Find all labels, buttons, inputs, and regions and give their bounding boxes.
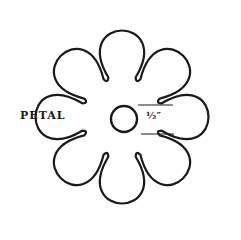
petal-label: PETAL: [20, 109, 66, 122]
center-hole: [111, 106, 137, 132]
center-size-label: ½″: [146, 110, 161, 121]
